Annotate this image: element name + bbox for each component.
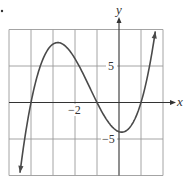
bullet-mark xyxy=(1,10,3,12)
x-axis-arrow-icon xyxy=(170,100,176,105)
y-tick-label-5: 5 xyxy=(108,59,114,73)
y-axis-label: y xyxy=(114,2,122,17)
x-tick-label-neg2: −2 xyxy=(68,103,81,117)
function-graph: 5 −5 −2 y x xyxy=(0,0,186,182)
curve-arrow-right-icon xyxy=(152,31,157,38)
y-axis-arrow-icon xyxy=(117,17,122,23)
x-axis-label: x xyxy=(176,94,183,109)
y-tick-label-neg5: −5 xyxy=(102,132,115,146)
axes xyxy=(9,17,176,176)
